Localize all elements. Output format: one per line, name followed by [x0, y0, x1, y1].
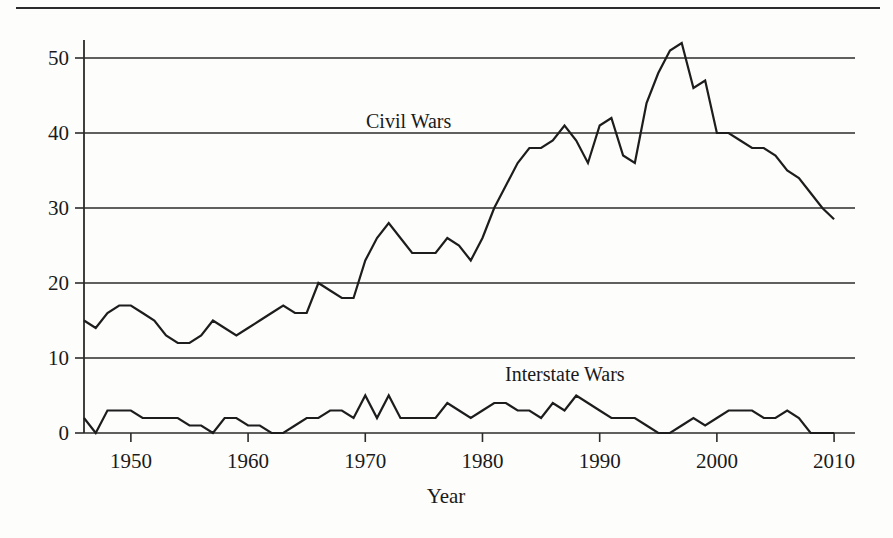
y-tick-label: 20	[48, 271, 69, 295]
interstate-wars-series-label: Interstate Wars	[505, 363, 625, 385]
x-tick-label: 2000	[696, 449, 738, 473]
y-tick-label: 10	[48, 346, 69, 370]
civil-wars-series-label: Civil Wars	[366, 110, 451, 132]
y-tick-label: 40	[48, 121, 69, 145]
x-tick-label: 1980	[461, 449, 503, 473]
y-tick-label: 30	[48, 196, 69, 220]
x-tick-label: 1960	[227, 449, 269, 473]
y-tick-labels-group: 01020304050	[48, 46, 69, 445]
y-tick-label: 0	[59, 421, 70, 445]
tick-marks-group	[75, 58, 834, 442]
y-tick-label: 50	[48, 46, 69, 70]
x-tick-label: 1950	[110, 449, 152, 473]
figure-page: 01020304050 1950196019701980199020002010…	[0, 0, 893, 538]
x-tick-label: 2010	[813, 449, 855, 473]
x-tick-labels-group: 1950196019701980199020002010	[110, 449, 855, 473]
gridlines-group	[84, 58, 855, 433]
interstate-wars-line	[84, 396, 834, 434]
civil-wars-line	[84, 43, 834, 343]
x-tick-label: 1970	[344, 449, 386, 473]
line-chart: 01020304050 1950196019701980199020002010…	[0, 0, 893, 538]
x-axis-title: Year	[427, 484, 466, 508]
x-tick-label: 1990	[579, 449, 621, 473]
